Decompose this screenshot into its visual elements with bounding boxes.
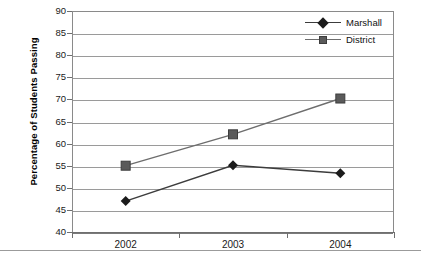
legend-label-district: District — [343, 34, 375, 45]
gridline — [73, 100, 393, 101]
y-axis-tick-label: 85 — [40, 28, 66, 38]
x-axis-tick-label: 2003 — [203, 239, 263, 250]
y-axis-tick-mark — [67, 77, 72, 78]
y-axis-tick-mark — [67, 33, 72, 34]
y-axis-tick-mark — [67, 11, 72, 12]
chart-legend: Marshall District — [303, 14, 398, 48]
diamond-marker-icon — [303, 16, 343, 30]
y-axis-tick-mark — [67, 99, 72, 100]
legend-item-district[interactable]: District — [303, 31, 398, 48]
gridline — [73, 233, 393, 234]
gridline — [73, 189, 393, 190]
legend-item-marshall[interactable]: Marshall — [303, 14, 398, 31]
x-axis-tick-label: 2002 — [96, 239, 156, 250]
y-axis-tick-labels: 4045505560657075808590 — [38, 0, 66, 268]
y-axis-tick-label: 75 — [40, 72, 66, 82]
gridline — [73, 78, 393, 79]
y-axis-tick-label: 70 — [40, 94, 66, 104]
square-marker-icon — [303, 33, 343, 47]
y-axis-tick-label: 55 — [40, 161, 66, 171]
y-axis-tick-label: 65 — [40, 117, 66, 127]
y-axis-tick-label: 50 — [40, 183, 66, 193]
gridline — [73, 167, 393, 168]
gridline — [73, 145, 393, 146]
y-axis-tick-mark — [67, 210, 72, 211]
chart-figure: Percentage of Students Passing 404550556… — [0, 0, 421, 268]
y-axis-tick-label: 45 — [40, 205, 66, 215]
x-axis-line — [72, 232, 394, 233]
y-axis-tick-label: 60 — [40, 139, 66, 149]
x-axis-tick-mark — [179, 232, 180, 238]
gridline — [73, 211, 393, 212]
y-axis-tick-label: 80 — [40, 50, 66, 60]
x-axis-tick-mark — [287, 232, 288, 238]
y-axis-tick-label: 40 — [40, 227, 66, 237]
gridline — [73, 123, 393, 124]
legend-label-marshall: Marshall — [343, 17, 382, 28]
y-axis-tick-mark — [67, 144, 72, 145]
y-axis-tick-mark — [67, 55, 72, 56]
y-axis-tick-label: 90 — [40, 6, 66, 16]
x-axis-tick-mark — [72, 232, 73, 238]
y-axis-tick-mark — [67, 122, 72, 123]
x-axis-tick-mark — [394, 232, 395, 238]
footer-divider — [0, 250, 421, 251]
y-axis-tick-mark — [67, 166, 72, 167]
y-axis-title: Percentage of Students Passing — [28, 17, 39, 207]
gridline — [73, 56, 393, 57]
y-axis-tick-mark — [67, 188, 72, 189]
x-axis-tick-label: 2004 — [310, 239, 370, 250]
